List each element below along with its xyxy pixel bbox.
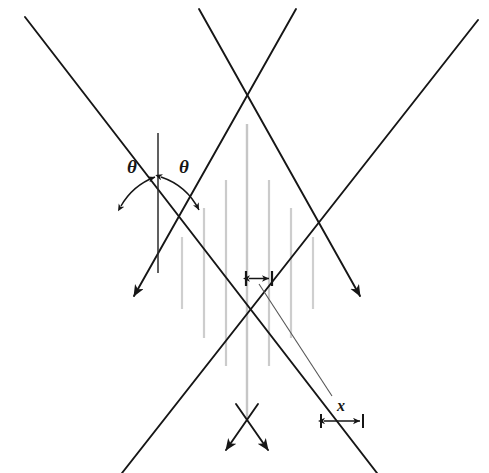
x-scale-bar-group	[321, 414, 363, 428]
beam-outer-left-ray	[25, 17, 377, 473]
figure-canvas: θ θ x	[0, 0, 489, 473]
fringe-hatching-group	[182, 124, 313, 418]
angle-arcs-group	[121, 177, 199, 210]
bottom-right-arrow-ray	[236, 404, 268, 450]
diagram-svg	[0, 0, 489, 473]
x-spacing-label: x	[337, 398, 345, 414]
beam-inner-left-ray	[199, 9, 360, 296]
beam-outer-right-ray	[122, 20, 478, 473]
bottom-left-arrow-ray	[226, 404, 258, 450]
theta-label-right: θ	[179, 157, 189, 176]
theta-label-left: θ	[127, 157, 137, 176]
theta-arc-left	[121, 177, 155, 206]
theta-arc-right	[161, 177, 199, 210]
beam-rays-group	[25, 9, 478, 473]
